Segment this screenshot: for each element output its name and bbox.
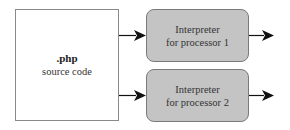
arrow-to-interpreter-2 [119,90,146,101]
arrow-out-interpreter-1 [249,30,274,41]
arrow-out-interpreter-2 [249,90,274,101]
arrows-layer [0,0,290,130]
arrow-to-interpreter-1 [119,30,146,41]
